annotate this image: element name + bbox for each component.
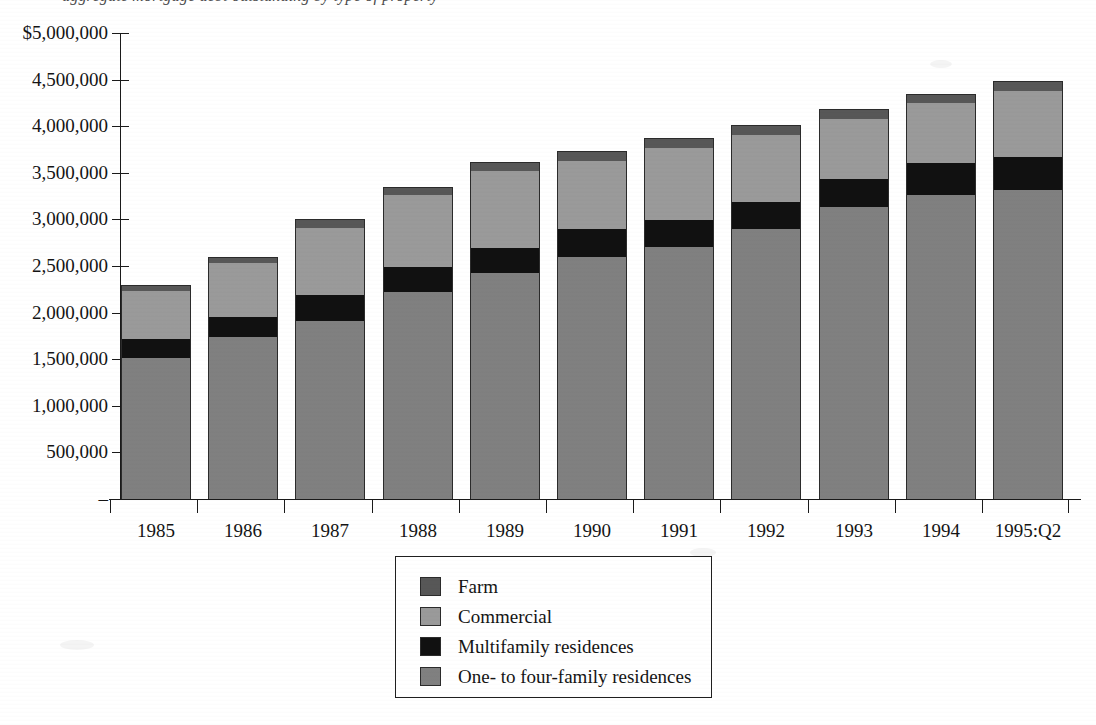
bar-segment-one-to-four-family-residences[interactable] <box>383 292 453 499</box>
bar-segment-multifamily-residences[interactable] <box>295 295 365 321</box>
bar-segment-one-to-four-family-residences[interactable] <box>644 247 714 499</box>
y-axis-tick-label: 1,500,000 <box>0 349 108 368</box>
bar-1989[interactable] <box>470 33 540 499</box>
bar-1991[interactable] <box>644 33 714 499</box>
y-axis-tick-label-text: 3,500,000 <box>4 163 108 182</box>
bar-segment-farm[interactable] <box>819 109 889 118</box>
y-axis-tick-label-text: 2,500,000 <box>4 256 108 275</box>
bar-segment-commercial[interactable] <box>295 228 365 295</box>
bar-1985[interactable] <box>121 33 191 499</box>
legend-item-one-to-four-family-residences[interactable]: One- to four-family residences <box>420 661 691 691</box>
legend-swatch-commercial <box>420 607 441 626</box>
x-axis-tick <box>808 499 809 513</box>
x-axis-label-1995-Q2: 1995:Q2 <box>975 520 1081 542</box>
x-axis-tick <box>720 499 721 513</box>
y-axis-tick-label-text: 1,000,000 <box>4 396 108 415</box>
bar-1994[interactable] <box>906 33 976 499</box>
x-axis-tick <box>110 499 111 513</box>
bar-segment-commercial[interactable] <box>644 148 714 221</box>
scan-smudge <box>60 640 94 650</box>
bar-segment-farm[interactable] <box>644 138 714 147</box>
y-axis-tick-label: 1,000,000 <box>0 396 108 415</box>
legend-item-farm[interactable]: Farm <box>420 571 498 601</box>
x-axis-tick <box>546 499 547 513</box>
legend-item-commercial[interactable]: Commercial <box>420 601 552 631</box>
bar-segment-commercial[interactable] <box>383 195 453 267</box>
legend-swatch-multifamily-residences <box>420 637 441 656</box>
y-axis-tick-label-text: – <box>4 489 108 508</box>
bar-1990[interactable] <box>557 33 627 499</box>
bar-1995-Q2[interactable] <box>993 33 1063 499</box>
y-axis-tick-label-text: 4,500,000 <box>4 70 108 89</box>
legend-swatch-one-to-four-family-residences <box>420 667 441 686</box>
x-axis-tick <box>633 499 634 513</box>
bar-segment-commercial[interactable] <box>470 171 540 248</box>
bar-segment-one-to-four-family-residences[interactable] <box>819 207 889 499</box>
y-axis-tick-label: 4,000,000 <box>0 116 108 135</box>
bar-segment-one-to-four-family-residences[interactable] <box>557 257 627 499</box>
bar-segment-multifamily-residences[interactable] <box>208 317 278 337</box>
x-axis-line <box>109 499 1081 500</box>
bar-segment-multifamily-residences[interactable] <box>993 157 1063 190</box>
y-axis-tick-label: 2,500,000 <box>0 256 108 275</box>
bar-1987[interactable] <box>295 33 365 499</box>
bar-1986[interactable] <box>208 33 278 499</box>
bar-segment-farm[interactable] <box>906 94 976 103</box>
bar-segment-multifamily-residences[interactable] <box>557 229 627 257</box>
y-axis-tick-label: $5,000,000 <box>0 23 108 42</box>
x-axis-tick <box>197 499 198 513</box>
bar-segment-commercial[interactable] <box>731 135 801 202</box>
bar-segment-commercial[interactable] <box>819 119 889 180</box>
y-axis-tick-label: 500,000 <box>0 442 108 461</box>
bar-segment-one-to-four-family-residences[interactable] <box>470 273 540 499</box>
bar-segment-one-to-four-family-residences[interactable] <box>295 321 365 499</box>
bar-segment-multifamily-residences[interactable] <box>121 339 191 359</box>
legend-label: Commercial <box>458 606 552 627</box>
bar-segment-farm[interactable] <box>731 125 801 134</box>
bar-segment-commercial[interactable] <box>557 161 627 229</box>
legend-label: Farm <box>458 576 498 597</box>
legend-swatch-farm <box>420 577 441 596</box>
x-axis-tick <box>459 499 460 513</box>
y-axis-tick-label-text: 500,000 <box>4 442 108 461</box>
stacked-bar-chart: –500,0001,000,0001,500,0002,000,0002,500… <box>0 0 1096 540</box>
y-axis-tick-label-text: 4,000,000 <box>4 116 108 135</box>
bar-segment-one-to-four-family-residences[interactable] <box>993 190 1063 499</box>
bar-segment-farm[interactable] <box>557 151 627 160</box>
bar-segment-one-to-four-family-residences[interactable] <box>121 358 191 499</box>
bar-segment-farm[interactable] <box>383 187 453 195</box>
legend-label: Multifamily residences <box>458 636 634 657</box>
bar-segment-farm[interactable] <box>993 81 1063 91</box>
y-axis-tick-label-text: $5,000,000 <box>4 23 108 42</box>
x-axis-tick <box>895 499 896 513</box>
bar-segment-multifamily-residences[interactable] <box>819 179 889 207</box>
bar-segment-farm[interactable] <box>295 219 365 227</box>
bar-segment-farm[interactable] <box>470 162 540 171</box>
bar-segment-one-to-four-family-residences[interactable] <box>731 229 801 499</box>
bar-segment-multifamily-residences[interactable] <box>906 163 976 195</box>
bar-1993[interactable] <box>819 33 889 499</box>
y-axis-tick-label-text: 3,000,000 <box>4 209 108 228</box>
bar-segment-commercial[interactable] <box>121 291 191 339</box>
bar-segment-multifamily-residences[interactable] <box>644 220 714 247</box>
bar-1992[interactable] <box>731 33 801 499</box>
bar-segment-farm[interactable] <box>208 257 278 264</box>
bar-segment-commercial[interactable] <box>208 263 278 317</box>
bar-segment-multifamily-residences[interactable] <box>383 267 453 292</box>
bar-segment-multifamily-residences[interactable] <box>731 202 801 229</box>
bar-segment-commercial[interactable] <box>993 91 1063 157</box>
bar-segment-commercial[interactable] <box>906 103 976 164</box>
legend-item-multifamily-residences[interactable]: Multifamily residences <box>420 631 634 661</box>
y-axis-tick-label-text: 1,500,000 <box>4 349 108 368</box>
bar-segment-multifamily-residences[interactable] <box>470 248 540 273</box>
bar-1988[interactable] <box>383 33 453 499</box>
x-axis-tick <box>1068 499 1069 513</box>
y-axis-tick-label: 3,000,000 <box>0 209 108 228</box>
x-axis-tick <box>284 499 285 513</box>
bar-segment-farm[interactable] <box>121 285 191 292</box>
x-axis-tick <box>372 499 373 513</box>
y-axis-tick-label-text: 2,000,000 <box>4 303 108 322</box>
bar-segment-one-to-four-family-residences[interactable] <box>906 195 976 499</box>
y-axis-tick-label: 3,500,000 <box>0 163 108 182</box>
bar-segment-one-to-four-family-residences[interactable] <box>208 337 278 499</box>
